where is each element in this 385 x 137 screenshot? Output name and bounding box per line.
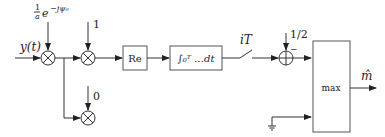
svg-text:−: − bbox=[290, 44, 298, 54]
svg-text:iT: iT bbox=[240, 33, 253, 47]
integrator-block: ∫₀ᵀ …dt bbox=[170, 46, 222, 70]
svg-text:1: 1 bbox=[35, 3, 40, 12]
svg-text:1/2: 1/2 bbox=[290, 28, 308, 41]
max-block: max bbox=[313, 41, 350, 132]
svg-text:0: 0 bbox=[93, 90, 100, 103]
adder: 1/2 − bbox=[279, 28, 308, 65]
block-diagram: y(t) 1 a e −jψ₀ 1 0 Re bbox=[0, 0, 385, 137]
ground bbox=[268, 117, 311, 130]
mixer-1: 1 a e −jψ₀ bbox=[34, 3, 69, 65]
svg-text:1: 1 bbox=[93, 18, 100, 31]
sampling-switch: iT bbox=[222, 33, 278, 58]
svg-text:max: max bbox=[322, 83, 341, 93]
svg-text:m̂: m̂ bbox=[361, 69, 372, 83]
svg-text:a: a bbox=[35, 12, 40, 21]
input-signal: y(t) bbox=[15, 40, 41, 58]
svg-text:Re: Re bbox=[128, 53, 142, 64]
output-signal: m̂ bbox=[350, 69, 376, 88]
mixer-3: 0 bbox=[81, 86, 100, 125]
svg-text:e: e bbox=[42, 7, 49, 20]
svg-text:∫₀ᵀ …dt: ∫₀ᵀ …dt bbox=[177, 53, 215, 64]
svg-text:y(t): y(t) bbox=[19, 40, 41, 54]
svg-text:−jψ₀: −jψ₀ bbox=[50, 4, 69, 13]
re-block: Re bbox=[123, 46, 147, 70]
